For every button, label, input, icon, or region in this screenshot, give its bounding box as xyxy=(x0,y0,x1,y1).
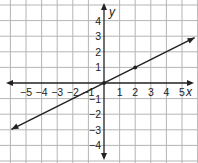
data-point xyxy=(133,65,137,69)
y-tick-label: −2 xyxy=(89,108,101,120)
x-axis-arrow-left-icon xyxy=(6,80,13,86)
y-tick-label: −4 xyxy=(89,139,101,151)
x-tick-label: 2 xyxy=(132,86,138,98)
x-axis-label: x xyxy=(185,85,193,99)
y-axis-label: y xyxy=(108,5,116,19)
y-axis-arrow-up-icon xyxy=(101,3,107,10)
y-tick-label: −1 xyxy=(89,93,101,105)
x-tick-label: 4 xyxy=(163,86,169,98)
y-tick-label: −3 xyxy=(89,124,101,136)
x-tick-label: 3 xyxy=(148,86,154,98)
data-point xyxy=(102,81,106,85)
y-axis-arrow-down-icon xyxy=(101,153,107,160)
y-tick-label: 2 xyxy=(95,46,101,58)
y-tick-label: 1 xyxy=(95,61,101,73)
x-tick-label: −4 xyxy=(36,86,48,98)
x-tick-label: −3 xyxy=(51,86,63,98)
x-tick-label: −5 xyxy=(20,86,32,98)
y-tick-label: 3 xyxy=(95,30,101,42)
x-tick-label: 1 xyxy=(117,86,123,98)
coordinate-plane: −5−4−3−2−112345−4−3−2−11234 x y xyxy=(0,0,198,163)
line-arrow-start-icon xyxy=(10,123,19,131)
y-tick-label: 4 xyxy=(95,15,101,27)
x-tick-label: 5 xyxy=(179,86,185,98)
